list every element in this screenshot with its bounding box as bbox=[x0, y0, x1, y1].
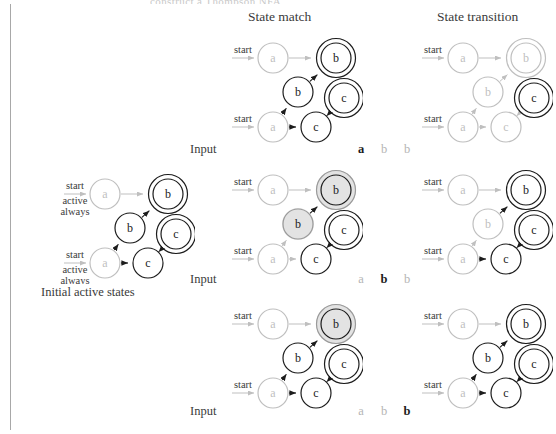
svg-text:c: c bbox=[503, 120, 508, 134]
input-symbol: b bbox=[378, 404, 390, 419]
svg-text:a: a bbox=[102, 187, 108, 201]
svg-text:c: c bbox=[313, 252, 318, 266]
automaton-state-match-row2: startstartabbcac bbox=[213, 162, 363, 280]
svg-text:start: start bbox=[234, 113, 252, 124]
svg-text:start: start bbox=[424, 379, 442, 390]
input-symbol: b bbox=[401, 272, 413, 287]
svg-text:start: start bbox=[234, 379, 252, 390]
input-symbol: a bbox=[355, 404, 367, 419]
running-head: construct a Thompson NFA bbox=[150, 0, 480, 4]
svg-text:always: always bbox=[60, 206, 89, 217]
input-label: Input bbox=[190, 404, 216, 419]
svg-text:a: a bbox=[270, 120, 276, 134]
svg-text:start: start bbox=[234, 245, 252, 256]
svg-text:b: b bbox=[165, 187, 171, 201]
input-symbol: b bbox=[401, 404, 413, 419]
svg-text:c: c bbox=[341, 91, 346, 105]
svg-text:start: start bbox=[424, 176, 442, 187]
svg-text:c: c bbox=[503, 386, 508, 400]
svg-text:a: a bbox=[460, 317, 466, 331]
input-symbol: b bbox=[378, 142, 390, 157]
svg-text:c: c bbox=[531, 223, 536, 237]
automaton-state-transition-row3: startstartabbcac bbox=[403, 296, 553, 414]
svg-text:b: b bbox=[523, 317, 529, 331]
svg-text:c: c bbox=[531, 357, 536, 371]
input-label: Input bbox=[190, 272, 216, 287]
svg-text:active: active bbox=[62, 264, 87, 275]
svg-text:a: a bbox=[460, 183, 466, 197]
svg-text:b: b bbox=[523, 183, 529, 197]
svg-text:b: b bbox=[485, 351, 491, 365]
svg-text:a: a bbox=[460, 252, 466, 266]
svg-text:a: a bbox=[270, 183, 276, 197]
svg-text:a: a bbox=[270, 317, 276, 331]
svg-text:a: a bbox=[460, 51, 466, 65]
svg-text:c: c bbox=[341, 357, 346, 371]
input-symbol: a bbox=[355, 272, 367, 287]
svg-text:start: start bbox=[424, 245, 442, 256]
page-margin-rule bbox=[10, 4, 11, 430]
svg-text:b: b bbox=[523, 51, 529, 65]
svg-text:c: c bbox=[313, 120, 318, 134]
svg-text:start: start bbox=[66, 180, 84, 191]
automaton-state-transition-row2: startstartabbcac bbox=[403, 162, 553, 280]
svg-text:b: b bbox=[295, 85, 301, 99]
svg-text:b: b bbox=[127, 221, 133, 235]
svg-text:a: a bbox=[270, 386, 276, 400]
automaton-state-transition-row1: startstartabbcac bbox=[403, 30, 553, 148]
svg-text:b: b bbox=[295, 351, 301, 365]
automaton-initial-active-states: startactivealwaysstartactivealwaysabbcac bbox=[30, 166, 195, 284]
svg-text:start: start bbox=[234, 310, 252, 321]
svg-text:b: b bbox=[295, 217, 301, 231]
svg-text:b: b bbox=[485, 85, 491, 99]
svg-text:b: b bbox=[333, 183, 339, 197]
svg-text:start: start bbox=[66, 249, 84, 260]
column-header-state-match: State match bbox=[248, 9, 311, 25]
svg-text:a: a bbox=[102, 256, 108, 270]
svg-text:b: b bbox=[333, 317, 339, 331]
svg-text:start: start bbox=[424, 310, 442, 321]
svg-text:start: start bbox=[234, 176, 252, 187]
svg-text:start: start bbox=[234, 44, 252, 55]
automaton-state-match-row3: startstartabbcac bbox=[213, 296, 363, 414]
input-symbol: b bbox=[378, 272, 390, 287]
automaton-state-match-row1: startstartabbcac bbox=[213, 30, 363, 148]
svg-text:a: a bbox=[270, 252, 276, 266]
svg-text:c: c bbox=[531, 91, 536, 105]
svg-text:active: active bbox=[62, 195, 87, 206]
column-header-state-transition: State transition bbox=[437, 9, 518, 25]
svg-text:c: c bbox=[313, 386, 318, 400]
input-symbol: a bbox=[355, 142, 367, 157]
caption-initial-active-states: Initial active states bbox=[41, 285, 135, 300]
input-symbol: b bbox=[401, 142, 413, 157]
svg-text:c: c bbox=[145, 256, 150, 270]
svg-text:a: a bbox=[270, 51, 276, 65]
input-label: Input bbox=[190, 142, 216, 157]
svg-text:c: c bbox=[503, 252, 508, 266]
svg-text:b: b bbox=[485, 217, 491, 231]
svg-text:c: c bbox=[341, 223, 346, 237]
svg-text:always: always bbox=[60, 275, 89, 284]
svg-text:b: b bbox=[333, 51, 339, 65]
svg-text:start: start bbox=[424, 44, 442, 55]
svg-text:start: start bbox=[424, 113, 442, 124]
svg-text:c: c bbox=[173, 227, 178, 241]
svg-text:a: a bbox=[460, 120, 466, 134]
svg-text:a: a bbox=[460, 386, 466, 400]
